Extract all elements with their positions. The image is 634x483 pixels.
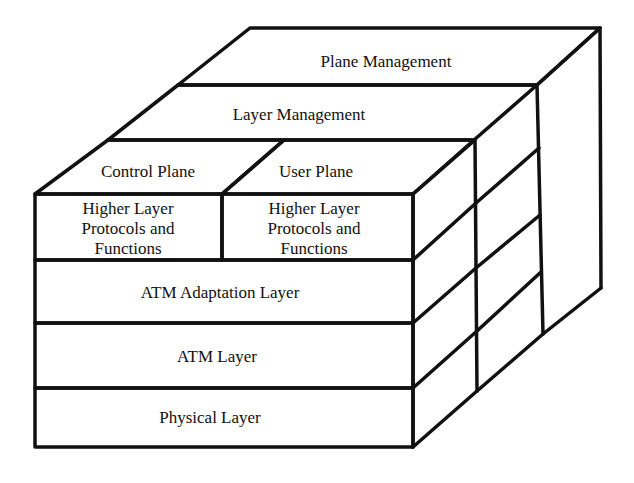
user-higher-layer-line-3: Functions — [280, 239, 347, 258]
user-plane-label: User Plane — [279, 162, 353, 181]
aal-label: ATM Adaptation Layer — [141, 283, 300, 302]
plane-management-label: Plane Management — [321, 52, 452, 71]
control-higher-layer-line-2: Protocols and — [81, 219, 175, 238]
control-higher-layer-line-3: Functions — [94, 239, 161, 258]
layer-management-label: Layer Management — [233, 105, 366, 124]
user-higher-layer-line-2: Protocols and — [267, 219, 361, 238]
user-higher-layer-line-1: Higher Layer — [268, 199, 359, 218]
control-higher-layer-line-1: Higher Layer — [82, 199, 173, 218]
bisdn-protocol-cube-diagram: Plane Management Layer Management Contro… — [0, 0, 634, 483]
control-plane-label: Control Plane — [101, 162, 195, 181]
physical-layer-label: Physical Layer — [159, 408, 261, 427]
atm-layer-label: ATM Layer — [177, 347, 257, 366]
side-vertical-plane-mgmt — [600, 28, 601, 288]
